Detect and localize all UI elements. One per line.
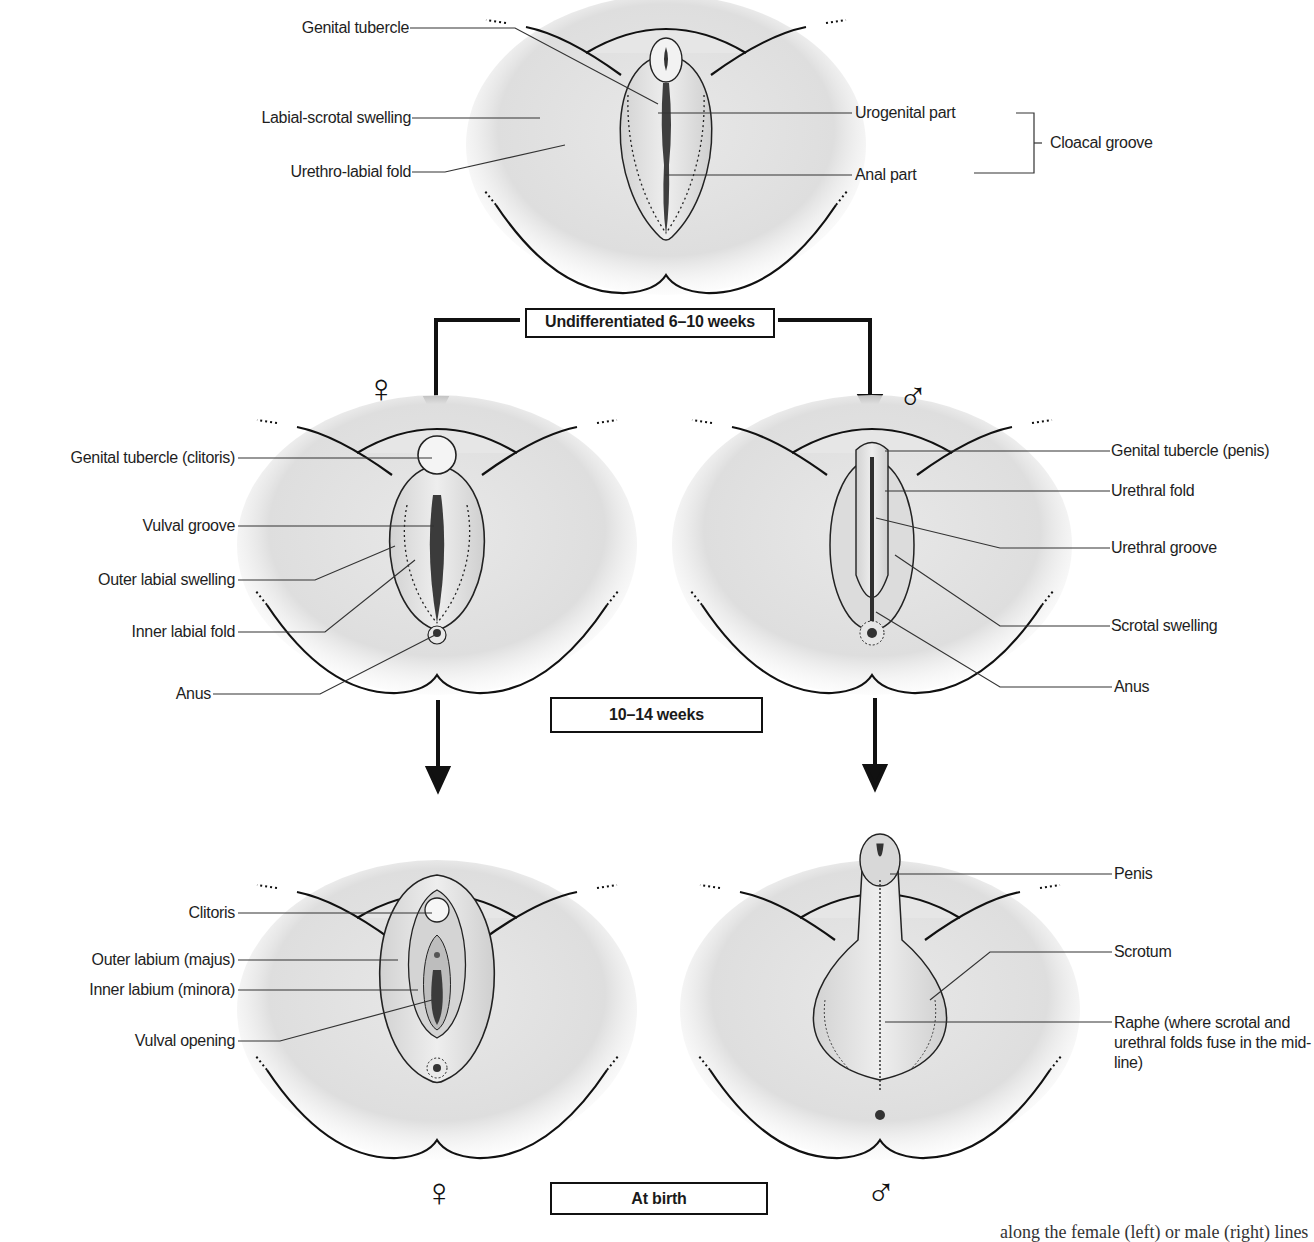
- label-clitoris: Clitoris: [189, 904, 236, 922]
- female-symbol-icon: ♀: [366, 368, 396, 408]
- label-scrotum: Scrotum: [1114, 943, 1171, 961]
- label-vulval-opening: Vulval opening: [135, 1032, 235, 1050]
- stage-at-birth: At birth: [550, 1182, 768, 1215]
- male-symbol-icon: ♂: [898, 376, 928, 416]
- label-outer-labium: Outer labium (majus): [92, 951, 235, 969]
- undifferentiated-illustration: [466, 0, 866, 295]
- label-urethral-fold: Urethral fold: [1111, 482, 1194, 500]
- label-genital-tubercle-clitoris: Genital tubercle (clitoris): [71, 449, 235, 467]
- label-cloacal-groove: Cloacal groove: [1050, 134, 1153, 152]
- label-anus-female: Anus: [176, 685, 211, 703]
- label-anal-part: Anal part: [855, 166, 916, 184]
- female-10-14-illustration: [237, 395, 637, 695]
- stage-undifferentiated: Undifferentiated 6–10 weeks: [525, 308, 775, 338]
- figure-caption-fragment: along the female (left) or male (right) …: [1000, 1222, 1308, 1242]
- label-inner-labium: Inner labium (minora): [89, 981, 235, 999]
- label-urethral-groove: Urethral groove: [1111, 539, 1217, 557]
- label-raphe: Raphe (where scrotal and urethral folds …: [1114, 1013, 1314, 1073]
- label-anus-male: Anus: [1114, 678, 1149, 696]
- label-urogenital-part: Urogenital part: [855, 104, 955, 122]
- label-genital-tubercle: Genital tubercle: [302, 19, 409, 37]
- label-penis: Penis: [1114, 865, 1153, 883]
- label-scrotal-swelling: Scrotal swelling: [1111, 617, 1217, 635]
- label-urethro-labial-fold: Urethro-labial fold: [290, 163, 411, 181]
- male-10-14-illustration: [672, 395, 1072, 695]
- female-symbol-icon: ♀: [424, 1172, 454, 1212]
- male-symbol-icon: ♂: [866, 1172, 896, 1212]
- label-vulval-groove: Vulval groove: [143, 517, 235, 535]
- male-birth-illustration: [680, 834, 1080, 1160]
- label-inner-labial-fold: Inner labial fold: [132, 623, 235, 641]
- label-labial-scrotal-swelling: Labial-scrotal swelling: [261, 109, 411, 127]
- label-genital-tubercle-penis: Genital tubercle (penis): [1111, 442, 1269, 460]
- label-outer-labial-swelling: Outer labial swelling: [98, 571, 235, 589]
- stage-10-14-weeks: 10–14 weeks: [550, 697, 763, 733]
- female-birth-illustration: [237, 860, 637, 1160]
